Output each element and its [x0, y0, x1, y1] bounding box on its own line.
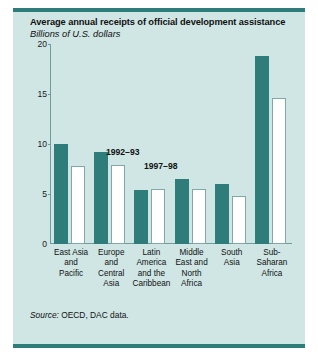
- bar-group: [91, 44, 131, 244]
- y-tick-label: 5: [30, 190, 47, 199]
- bar: [175, 179, 189, 244]
- y-tick-label: 10: [30, 140, 47, 149]
- legend-label-series-1: 1992–93: [106, 148, 139, 157]
- x-axis-label-line: North: [166, 269, 218, 279]
- chart-title: Average annual receipts of official deve…: [30, 17, 298, 28]
- x-axis-label-line: Africa: [246, 269, 298, 279]
- bar: [232, 196, 246, 244]
- x-axis-label-line: Saharan: [246, 258, 298, 268]
- bar: [272, 98, 286, 244]
- y-tick-label: 20: [30, 40, 47, 49]
- bar: [111, 165, 125, 244]
- y-tick-label: 15: [30, 90, 47, 99]
- bar: [94, 152, 108, 244]
- chart-panel: Average annual receipts of official deve…: [13, 8, 305, 348]
- source-label: Source:: [30, 310, 59, 320]
- x-axis-label: Sub-SaharanAfrica: [246, 248, 298, 279]
- y-tick-label: 0: [30, 240, 47, 249]
- bar: [54, 144, 68, 244]
- bar-group: [212, 44, 252, 244]
- bar-group: [51, 44, 91, 244]
- x-axis-category-labels: East AsiaandPacificEuropeandCentralAsiaL…: [51, 248, 316, 300]
- legend-label-series-2: 1997–98: [144, 162, 177, 171]
- bar: [215, 184, 229, 244]
- bar: [134, 190, 148, 244]
- panel-bottom-rule: [13, 344, 305, 348]
- source-text: OECD, DAC data.: [59, 310, 129, 320]
- bar-group: [131, 44, 171, 244]
- bar-group: [172, 44, 212, 244]
- bar-groups: [51, 44, 292, 244]
- bar: [151, 189, 165, 244]
- bar: [255, 56, 269, 244]
- bar-group: [252, 44, 292, 244]
- panel-top-rule: [13, 8, 305, 12]
- bar: [71, 166, 85, 244]
- x-axis-label-line: Africa: [166, 279, 218, 289]
- chart-subtitle: Billions of U.S. dollars: [30, 29, 298, 40]
- x-axis-label-line: Sub-: [246, 248, 298, 258]
- bar: [192, 189, 206, 244]
- plot-area: 05101520 1992–93 1997–98: [30, 44, 292, 246]
- source-note: Source: OECD, DAC data.: [30, 310, 129, 320]
